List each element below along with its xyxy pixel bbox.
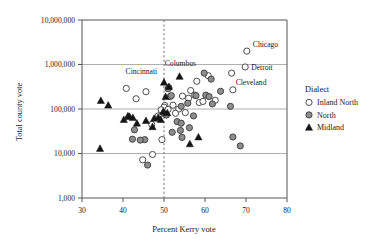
- scatter-plot-svg: 1,00010,000100,0001,000,00010,000,000 30…: [0, 0, 383, 249]
- data-point: [143, 89, 149, 95]
- data-point: [179, 134, 185, 140]
- legend-group: DialectInland NorthNorthMidland: [305, 85, 358, 132]
- data-point: [177, 127, 183, 133]
- x-tick-label-70: 70: [242, 206, 250, 215]
- data-point: [123, 85, 129, 91]
- data-point: [96, 145, 103, 152]
- data-point: [186, 125, 192, 131]
- annotation-columbus: Columbus: [165, 59, 196, 68]
- x-tick-label-60: 60: [201, 206, 209, 215]
- data-point: [227, 103, 233, 109]
- data-point: [149, 151, 155, 157]
- x-tick-labels: 304050607080: [78, 206, 291, 215]
- y-tick-label-1000000: 1,000,000: [45, 60, 76, 69]
- data-point: [140, 157, 146, 163]
- data-point: [105, 102, 112, 109]
- y-tick-label-10000000: 10,000,000: [41, 16, 75, 25]
- x-tick-label-80: 80: [283, 206, 291, 215]
- data-point: [159, 137, 165, 143]
- annotations-group: ChicagoDetroitClevelandColumbusCincinnat…: [126, 40, 279, 87]
- data-point: [178, 103, 184, 109]
- y-tick-label-10000: 10,000: [54, 149, 75, 158]
- x-axis-title: Percent Kerry vote: [152, 225, 216, 234]
- data-point: [129, 136, 135, 142]
- legend-title: Dialect: [305, 85, 330, 94]
- y-tick-label-1000: 1,000: [58, 194, 75, 203]
- data-point: [190, 113, 196, 119]
- data-point: [194, 78, 200, 84]
- x-tick-label-40: 40: [119, 206, 127, 215]
- data-point: [169, 129, 175, 135]
- data-point: [217, 88, 223, 94]
- data-point: [142, 117, 149, 124]
- data-point: [179, 93, 185, 99]
- data-point: [145, 162, 151, 168]
- legend-label-midland: Midland: [317, 123, 344, 132]
- data-point: [230, 134, 236, 140]
- legend-label-north: North: [317, 111, 336, 120]
- y-tick-label-100000: 100,000: [50, 105, 75, 114]
- annotation-cleveland: Cleveland: [236, 78, 267, 87]
- legend-marker-midland: [305, 124, 312, 131]
- data-point: [237, 143, 243, 149]
- legend-marker-inland-north: [306, 99, 312, 105]
- legend-label-inland-north: Inland North: [317, 98, 358, 107]
- data-point: [209, 101, 215, 107]
- data-point: [186, 140, 193, 147]
- data-point: [195, 133, 202, 140]
- data-point: [201, 70, 207, 76]
- data-point: [200, 98, 206, 104]
- data-point: [160, 79, 167, 86]
- data-point: [193, 93, 199, 99]
- data-point: [206, 93, 212, 99]
- data-point: [242, 64, 248, 70]
- data-point: [172, 110, 178, 116]
- annotation-cincinnati: Cincinnati: [126, 67, 158, 76]
- y-axis-title: Total county vote: [15, 82, 24, 141]
- legend-marker-north: [306, 112, 312, 118]
- data-point: [176, 73, 183, 80]
- data-point: [133, 96, 139, 102]
- data-point: [178, 120, 184, 126]
- data-point: [185, 100, 191, 106]
- data-point: [230, 87, 236, 93]
- y-tick-labels: 1,00010,000100,0001,000,00010,000,000: [41, 16, 75, 203]
- annotation-detroit: Detroit: [251, 63, 273, 72]
- data-point: [97, 97, 104, 104]
- data-point: [131, 127, 137, 133]
- data-point: [182, 110, 188, 116]
- annotation-chicago: Chicago: [253, 40, 279, 49]
- data-point: [168, 93, 174, 99]
- data-point: [208, 76, 214, 82]
- data-point: [244, 48, 250, 54]
- data-point: [229, 70, 235, 76]
- x-tick-label-30: 30: [78, 206, 86, 215]
- x-tick-label-50: 50: [160, 206, 168, 215]
- data-point: [137, 137, 143, 143]
- chart-figure: 1,00010,000100,0001,000,00010,000,000 30…: [0, 0, 383, 249]
